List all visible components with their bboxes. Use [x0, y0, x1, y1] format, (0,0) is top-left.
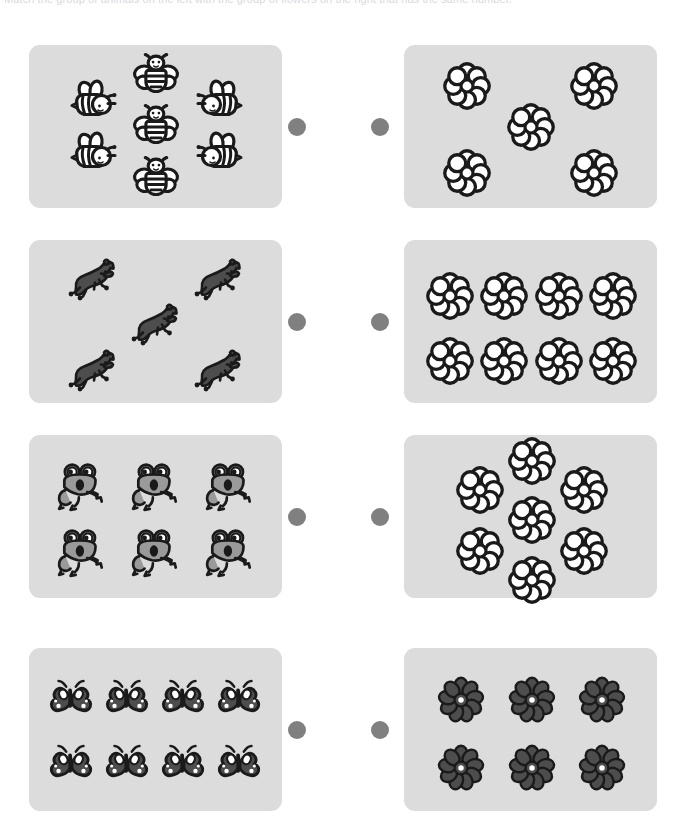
- flower-icon: [481, 273, 527, 319]
- group-panel-left-row-4[interactable]: [29, 648, 282, 811]
- flower-icon: [571, 63, 617, 109]
- bee-icon: [71, 134, 121, 173]
- group-panel-left-row-1[interactable]: [29, 45, 282, 208]
- flower-icon: [509, 677, 555, 723]
- flower-icon: [444, 63, 490, 109]
- horse-icon: [194, 351, 244, 392]
- match-row-3: [0, 435, 677, 600]
- match-row-2: [0, 240, 677, 405]
- butterfly-icon: [103, 747, 151, 789]
- worksheet-page: Match the group of animals on the left w…: [0, 0, 677, 831]
- flower-icon: [427, 273, 473, 319]
- bee-icon: [71, 82, 121, 121]
- match-row-4: [0, 648, 677, 813]
- connector-dot-right-row-3[interactable]: [371, 508, 389, 526]
- horse-icon: [194, 260, 244, 301]
- group-items-left: [29, 648, 282, 811]
- bee-icon: [192, 134, 242, 173]
- butterfly-icon: [47, 747, 95, 789]
- horse-icon: [131, 305, 181, 346]
- group-panel-right-row-4[interactable]: [404, 648, 657, 811]
- group-items-left: [29, 45, 282, 208]
- flower-icon: [590, 273, 636, 319]
- flower-icon: [509, 745, 555, 791]
- flower-icon: [561, 467, 607, 513]
- flower-icon: [438, 677, 484, 723]
- frog-icon: [56, 529, 108, 577]
- connector-dot-left-row-2[interactable]: [288, 313, 306, 331]
- flower-icon: [536, 338, 582, 384]
- flower-icon: [571, 150, 617, 196]
- frog-icon: [204, 529, 256, 577]
- frog-icon: [130, 529, 182, 577]
- flower-icon: [457, 467, 503, 513]
- flower-icon: [444, 150, 490, 196]
- flower-icon: [427, 338, 473, 384]
- group-items-left: [29, 435, 282, 598]
- connector-dot-left-row-4[interactable]: [288, 721, 306, 739]
- group-panel-left-row-3[interactable]: [29, 435, 282, 598]
- frog-icon: [130, 463, 182, 511]
- flower-icon: [509, 557, 555, 603]
- flower-icon: [590, 338, 636, 384]
- connector-dot-left-row-1[interactable]: [288, 118, 306, 136]
- butterfly-icon: [47, 682, 95, 724]
- horse-icon: [68, 351, 118, 392]
- bee-icon: [133, 103, 179, 149]
- group-items-left: [29, 240, 282, 403]
- connector-dot-right-row-1[interactable]: [371, 118, 389, 136]
- flower-icon: [561, 528, 607, 574]
- match-row-1: [0, 45, 677, 210]
- group-panel-left-row-2[interactable]: [29, 240, 282, 403]
- connector-dot-right-row-2[interactable]: [371, 313, 389, 331]
- flower-icon: [438, 745, 484, 791]
- group-panel-right-row-2[interactable]: [404, 240, 657, 403]
- header-strip: Match the group of animals on the left w…: [0, 0, 677, 9]
- group-panel-right-row-3[interactable]: [404, 435, 657, 598]
- connector-dot-right-row-4[interactable]: [371, 721, 389, 739]
- group-items-right: [404, 240, 657, 403]
- butterfly-icon: [159, 747, 207, 789]
- flower-icon: [481, 338, 527, 384]
- group-items-right: [404, 435, 657, 598]
- bee-icon: [192, 82, 242, 121]
- butterfly-icon: [103, 682, 151, 724]
- flower-icon: [457, 528, 503, 574]
- flower-icon: [509, 438, 555, 484]
- frog-icon: [56, 463, 108, 511]
- group-items-right: [404, 648, 657, 811]
- group-items-right: [404, 45, 657, 208]
- flower-icon: [579, 745, 625, 791]
- bee-icon: [133, 52, 179, 98]
- butterfly-icon: [215, 682, 263, 724]
- header-instruction-text: Match the group of animals on the left w…: [4, 0, 512, 5]
- group-panel-right-row-1[interactable]: [404, 45, 657, 208]
- connector-dot-left-row-3[interactable]: [288, 508, 306, 526]
- horse-icon: [68, 260, 118, 301]
- flower-icon: [579, 677, 625, 723]
- flower-icon: [509, 497, 555, 543]
- bee-icon: [133, 155, 179, 201]
- butterfly-icon: [159, 682, 207, 724]
- butterfly-icon: [215, 747, 263, 789]
- flower-icon: [536, 273, 582, 319]
- frog-icon: [204, 463, 256, 511]
- flower-icon: [508, 104, 554, 150]
